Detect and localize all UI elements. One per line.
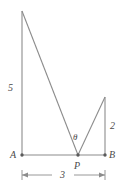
geometry-diagram-svg	[0, 0, 125, 190]
vertex-dot-b	[103, 153, 106, 156]
point-label-p: P	[74, 161, 80, 171]
dimension-arrow-left	[22, 173, 28, 178]
measurement-label-right-side: 2	[110, 121, 115, 131]
angle-label-theta: θ	[73, 133, 77, 142]
vertex-dot-p	[76, 153, 79, 156]
measurement-label-base-dimension: 3	[60, 170, 65, 180]
geometry-figure: A B P 5 2 3 θ	[0, 0, 125, 190]
segment-left-hypotenuse	[22, 11, 78, 155]
vertex-dot-a	[20, 153, 23, 156]
segment-right-hypotenuse	[78, 97, 105, 155]
dimension-arrow-right	[99, 173, 105, 178]
point-label-b: B	[109, 150, 115, 160]
measurement-label-left-side: 5	[8, 83, 13, 93]
point-label-a: A	[10, 150, 16, 160]
